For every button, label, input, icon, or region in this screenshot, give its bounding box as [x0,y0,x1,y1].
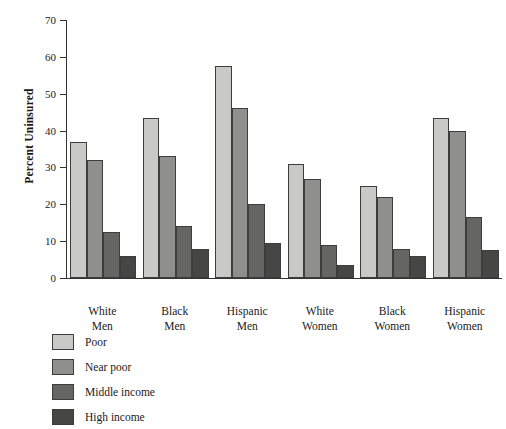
bar[interactable] [288,164,305,278]
bar[interactable] [410,256,427,278]
bar[interactable] [159,156,176,278]
y-axis-title: Percent Uninsured [23,36,35,236]
bar[interactable] [248,204,265,278]
legend-color-swatch [52,409,74,425]
y-axis-tick: 70 [60,20,66,21]
bar[interactable] [215,66,232,278]
legend-item[interactable]: Middle income [52,381,155,403]
y-axis-tick-label: 60 [45,49,56,65]
bar[interactable] [337,265,354,278]
bar[interactable] [87,160,104,278]
x-axis-category-label: HispanicWomen [418,304,506,334]
bar[interactable] [192,249,209,278]
legend-item[interactable]: High income [52,406,155,428]
y-axis-tick: 10 [60,241,66,242]
bar[interactable] [321,245,338,278]
y-axis-tick: 50 [60,94,66,95]
legend-color-swatch [52,334,74,350]
y-axis-tick: 0 [60,278,66,279]
y-axis-tick-label: 30 [45,159,56,175]
bar[interactable] [449,131,466,278]
bar[interactable] [70,142,87,278]
bar[interactable] [360,186,377,278]
bar[interactable] [103,232,120,278]
bar[interactable] [393,249,410,278]
bar-group [70,20,136,278]
bar[interactable] [232,108,249,278]
legend-item[interactable]: Near poor [52,356,155,378]
y-axis-tick: 60 [60,57,66,58]
bar[interactable] [433,118,450,278]
bar[interactable] [143,118,160,278]
x-axis-line [66,278,502,279]
legend-color-swatch [52,384,74,400]
bar[interactable] [120,256,137,278]
y-axis-tick: 30 [60,167,66,168]
y-axis-tick-label: 20 [45,196,56,212]
legend-label: Middle income [85,386,155,398]
bar[interactable] [466,217,483,278]
chart-legend: PoorNear poorMiddle incomeHigh income [52,331,155,429]
y-axis-tick-label: 10 [45,233,56,249]
category-label-line: Women [418,319,506,334]
y-axis-tick-label: 0 [51,270,57,286]
bar-group [433,20,499,278]
bar[interactable] [377,197,394,278]
bar-group [360,20,426,278]
y-axis-tick: 40 [60,131,66,132]
bar-group [143,20,209,278]
y-axis-tick: 20 [60,204,66,205]
legend-item[interactable]: Poor [52,331,155,353]
bar-series-container [67,20,502,278]
legend-label: Near poor [85,361,131,373]
y-axis-tick-label: 40 [45,123,56,139]
bar[interactable] [482,250,499,278]
legend-label: Poor [85,336,107,348]
bar[interactable] [304,179,321,279]
bar[interactable] [265,243,282,278]
bar-group [288,20,354,278]
bar[interactable] [176,226,193,278]
bar-group [215,20,281,278]
y-axis-tick-label: 50 [45,86,56,102]
legend-color-swatch [52,359,74,375]
y-axis-tick-label: 70 [45,12,56,28]
plot-area: 010203040506070 WhiteMenBlackMenHispanic… [66,20,502,278]
category-label-line: Hispanic [418,304,506,319]
legend-label: High income [85,411,145,423]
